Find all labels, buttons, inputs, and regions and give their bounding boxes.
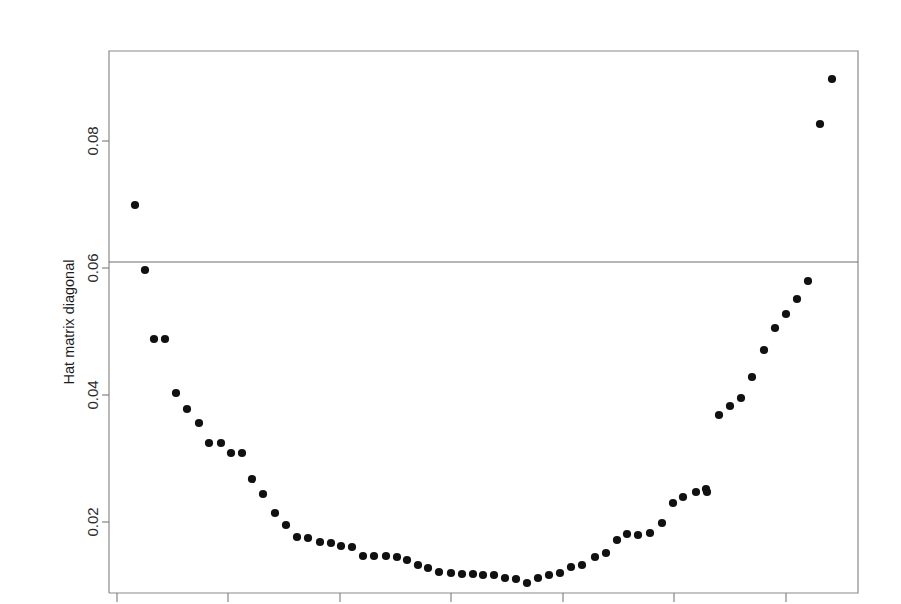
data-point [501, 574, 509, 582]
data-point [382, 552, 390, 560]
data-point [793, 295, 801, 303]
data-points [131, 75, 836, 587]
data-point [414, 561, 422, 569]
data-point [567, 563, 575, 571]
data-point [348, 543, 356, 551]
data-point [646, 529, 654, 537]
data-point [692, 488, 700, 496]
data-point [205, 439, 213, 447]
data-point [658, 519, 666, 527]
data-point [172, 389, 180, 397]
data-point [183, 405, 191, 413]
data-point [804, 277, 812, 285]
data-point [248, 475, 256, 483]
data-point [469, 570, 477, 578]
plot-box-border [109, 51, 858, 593]
data-point [623, 530, 631, 538]
data-point [828, 75, 836, 83]
x-axis-ticks [117, 593, 786, 602]
y-tick-label: 0.06 [84, 253, 101, 282]
y-tick-label: 0.04 [84, 380, 101, 409]
data-point [556, 569, 564, 577]
data-point [534, 574, 542, 582]
data-point [490, 571, 498, 579]
y-axis-ticks: 0.020.040.060.08 [84, 126, 110, 536]
data-point [271, 509, 279, 517]
data-point [259, 490, 267, 498]
data-point [282, 521, 290, 529]
data-point [669, 499, 677, 507]
data-point [238, 449, 246, 457]
data-point [613, 536, 621, 544]
data-point [195, 419, 203, 427]
data-point [150, 335, 158, 343]
data-point [512, 575, 520, 583]
data-point [161, 335, 169, 343]
data-point [479, 571, 487, 579]
data-point [327, 539, 335, 547]
data-point [737, 394, 745, 402]
data-point [771, 324, 779, 332]
data-point [424, 564, 432, 572]
data-point [591, 553, 599, 561]
data-point [748, 373, 756, 381]
data-point [447, 569, 455, 577]
scatter-plot-figure: 0.020.040.060.08 Hat matrix diagonal [0, 0, 901, 604]
data-point [816, 120, 824, 128]
data-point [578, 561, 586, 569]
data-point [316, 538, 324, 546]
data-point [337, 542, 345, 550]
data-point [370, 552, 378, 560]
data-point [359, 552, 367, 560]
data-point [217, 439, 225, 447]
data-point [304, 534, 312, 542]
data-point [760, 346, 768, 354]
data-point [715, 411, 723, 419]
data-point [679, 493, 687, 501]
data-point [141, 266, 149, 274]
data-point [403, 556, 411, 564]
data-point [782, 310, 790, 318]
data-point [523, 579, 531, 587]
plot-canvas: 0.020.040.060.08 Hat matrix diagonal [0, 0, 901, 604]
data-point [435, 568, 443, 576]
data-point [726, 402, 734, 410]
data-point [602, 549, 610, 557]
data-point [545, 571, 553, 579]
data-point [131, 201, 139, 209]
data-point [634, 531, 642, 539]
y-axis-title: Hat matrix diagonal [61, 260, 77, 385]
data-point [293, 533, 301, 541]
data-point [393, 553, 401, 561]
y-tick-label: 0.08 [84, 126, 101, 155]
data-point [702, 485, 710, 493]
y-tick-label: 0.02 [84, 507, 101, 536]
data-point [458, 570, 466, 578]
data-point [227, 449, 235, 457]
